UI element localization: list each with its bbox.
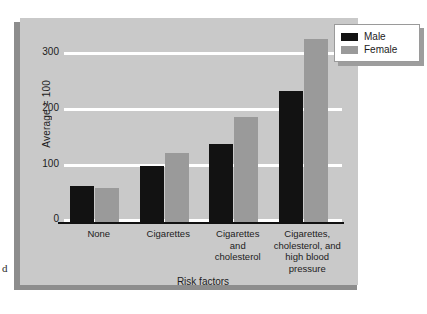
category-label-line: cholesterol, and — [274, 240, 341, 251]
legend-label-male: Male — [364, 31, 386, 42]
category-label-line: Cigarettes — [147, 228, 190, 239]
bar-male-cigarettes[interactable] — [140, 166, 164, 222]
bar-group-cigarettes-cholesterol-bp — [279, 26, 328, 222]
legend-swatch-female-icon — [341, 46, 358, 54]
bar-female-cigarettes-cholesterol[interactable] — [234, 117, 258, 222]
bar-female-cigarettes[interactable] — [165, 153, 189, 222]
bar-female-cigarettes-cholesterol-bp[interactable] — [304, 39, 328, 222]
y-tick-label-100: 100 — [42, 159, 59, 169]
category-label-line: cholesterol — [215, 251, 261, 262]
category-label-line: pressure — [289, 263, 326, 274]
page-canvas: d Average = 100 0 100 200 300 — [0, 0, 427, 314]
x-axis-title: Risk factors — [64, 276, 342, 287]
category-label-cigarettes-cholesterol-bp: Cigarettes,cholesterol, andhigh bloodpre… — [267, 228, 349, 274]
x-axis-line — [58, 222, 344, 224]
legend-entry-female[interactable]: Female — [341, 43, 413, 56]
category-label-line: high blood — [285, 251, 329, 262]
bar-group-cigarettes — [140, 26, 189, 222]
legend-entry-male[interactable]: Male — [341, 30, 413, 43]
bar-group-cigarettes-cholesterol — [209, 26, 258, 222]
bar-male-cigarettes-cholesterol-bp[interactable] — [279, 91, 303, 222]
category-label-line: Cigarettes — [216, 228, 259, 239]
legend-label-female: Female — [364, 44, 397, 55]
bars-layer — [64, 26, 342, 222]
chart-legend: Male Female — [334, 24, 420, 62]
bar-group-none — [70, 26, 119, 222]
y-axis-title: Average = 100 — [41, 80, 52, 148]
margin-cut-glyph: d — [2, 262, 8, 274]
category-label-line: None — [87, 228, 110, 239]
legend-swatch-male-icon — [341, 33, 358, 41]
chart-panel: Average = 100 0 100 200 300 — [20, 18, 358, 285]
bar-male-cigarettes-cholesterol[interactable] — [209, 144, 233, 222]
y-tick-label-200: 200 — [42, 103, 59, 113]
plot-area: 0 100 200 300 — [64, 26, 342, 224]
bar-male-none[interactable] — [70, 186, 94, 222]
y-tick-label-300: 300 — [42, 47, 59, 57]
category-label-line: Cigarettes, — [284, 228, 330, 239]
category-label-line: and — [230, 240, 246, 251]
bar-female-none[interactable] — [95, 188, 119, 222]
